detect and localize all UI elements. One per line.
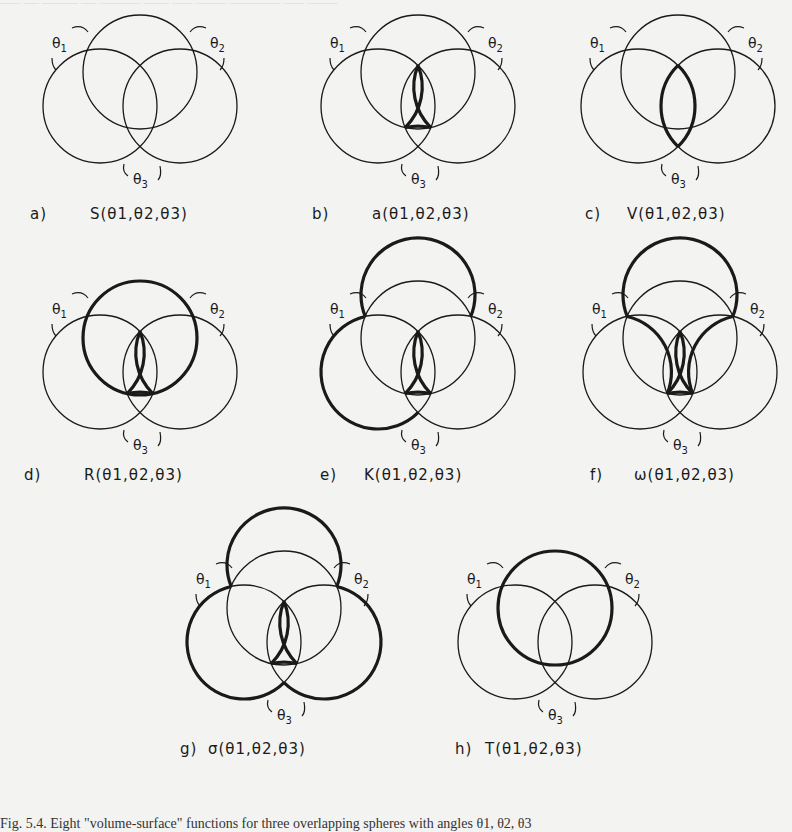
arrow-icon [402, 430, 407, 442]
theta-2-label: θ2 [750, 301, 765, 320]
arrow-icon [216, 563, 232, 568]
arrow-icon [662, 164, 667, 176]
bold-left-outer [321, 316, 418, 429]
panel-label-a: a)S(θ1,θ2,θ3) [30, 205, 188, 223]
arrow-icon [268, 700, 273, 712]
panel-label-b: b)a(θ1,θ2,θ3) [312, 205, 470, 223]
arrow-icon [612, 293, 628, 298]
panel-label-f: f)ω(θ1,θ2,θ3) [590, 466, 735, 484]
bold-top-outer [227, 508, 341, 587]
theta-3-label: θ3 [411, 437, 426, 456]
arrow-icon [52, 324, 56, 336]
bold-top-outer [623, 238, 737, 317]
arrow-icon [190, 293, 206, 298]
figure-canvas: θ1θ2θ3θ1θ2θ3θ1θ2θ3θ1θ2θ3θ1θ2θ3θ1θ2θ3θ1θ2… [0, 0, 792, 832]
right-circle [123, 49, 237, 163]
theta-2-label: θ2 [488, 35, 503, 54]
bold-left-outer [187, 586, 284, 699]
arrow-icon [72, 293, 88, 298]
bold-center-bottom [405, 126, 431, 127]
arrow-icon [610, 27, 626, 32]
theta-1-label: θ1 [330, 301, 345, 320]
arrow-icon [467, 594, 471, 606]
bold-top-circle [498, 551, 612, 665]
arrow-icon [698, 432, 701, 446]
theta-1-label: θ1 [330, 35, 345, 54]
theta-3-label: θ3 [671, 171, 686, 190]
theta-2-label: θ2 [488, 301, 503, 320]
arrow-icon [696, 166, 699, 180]
arrow-icon [728, 27, 744, 32]
arrow-icon [158, 432, 161, 446]
arrow-icon [539, 700, 544, 712]
theta-1-label: θ1 [590, 35, 605, 54]
arrow-icon [330, 58, 334, 70]
bold-inner-top-left [627, 316, 671, 393]
arrow-icon [468, 27, 484, 32]
theta-1-label: θ1 [196, 571, 211, 590]
arrow-icon [124, 430, 129, 442]
panel-label-e: e)K(θ1,θ2,θ3) [320, 466, 462, 484]
theta-3-label: θ3 [133, 437, 148, 456]
theta-2-label: θ2 [354, 571, 369, 590]
arrow-icon [487, 563, 503, 568]
arrow-icon [402, 164, 407, 176]
arrow-icon [436, 432, 439, 446]
bold-lens-right [678, 65, 695, 146]
top-circle [83, 15, 197, 129]
figure-caption: Fig. 5.4. Eight "volume-surface" functio… [0, 816, 532, 832]
right-circle [538, 585, 652, 699]
theta-1-label: θ1 [52, 301, 67, 320]
bold-lens-left [661, 65, 678, 146]
bold-center-bottom [405, 392, 431, 393]
arrow-icon [436, 166, 439, 180]
theta-3-label: θ3 [133, 171, 148, 190]
bold-center-bottom [271, 662, 297, 663]
theta-3-label: θ3 [673, 437, 688, 456]
arrow-icon [190, 27, 206, 32]
arrow-icon [302, 702, 305, 716]
panel-label-h: h)T(θ1,θ2,θ3) [455, 740, 583, 758]
theta-2-label: θ2 [748, 35, 763, 54]
arrow-icon [124, 164, 129, 176]
arrow-icon [158, 166, 161, 180]
arrow-icon [52, 58, 56, 70]
theta-2-label: θ2 [625, 571, 640, 590]
arrow-icon [605, 563, 621, 568]
theta-2-label: θ2 [210, 301, 225, 320]
theta-1-label: θ1 [592, 301, 607, 320]
panel-label-c: c)V(θ1,θ2,θ3) [585, 205, 726, 223]
theta-2-label: θ2 [210, 35, 225, 54]
panel-label-g: g)σ(θ1,θ2,θ3) [180, 740, 306, 758]
arrow-icon [592, 324, 596, 336]
theta-3-label: θ3 [548, 707, 563, 726]
arrow-icon [350, 293, 366, 298]
panel-label-d: d)R(θ1,θ2,θ3) [24, 466, 183, 484]
bold-inner-top-right [689, 316, 733, 393]
theta-3-label: θ3 [277, 707, 292, 726]
arrow-icon [350, 27, 366, 32]
bold-top-outer [361, 238, 475, 317]
theta-1-label: θ1 [52, 35, 67, 54]
arrow-icon [72, 27, 88, 32]
arrow-icon [590, 58, 594, 70]
theta-1-label: θ1 [467, 571, 482, 590]
top-circle [621, 15, 735, 129]
arrow-icon [664, 430, 669, 442]
arrow-icon [573, 702, 576, 716]
theta-3-label: θ3 [411, 171, 426, 190]
bold-center-bottom [667, 392, 693, 393]
